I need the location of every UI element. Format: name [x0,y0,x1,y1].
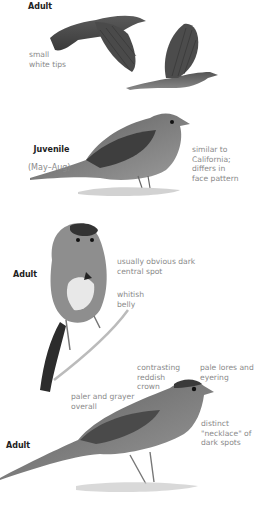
central-spot-label: usually obvious dark central spot [117,257,195,276]
adult-front-heading: Adult [13,270,37,279]
adult-front-bird-illustration [40,223,128,392]
juvenile-heading: Juvenile (May–Aug) [28,136,70,181]
juvenile-season: (May–Aug) [28,163,70,172]
adult-side-heading: Adult [6,441,30,450]
adult-flight-heading: Adult [28,2,52,11]
reddish-crown-label: contrasting reddish crown [137,363,180,392]
paler-grayer-label: paler and grayer overall [71,392,134,411]
necklace-label: distinct "necklace" of dark spots [201,419,251,448]
pale-lores-label: pale lores and eyering [200,363,254,382]
flying-bird-right-illustration [126,24,218,90]
juvenile-comparison-label: similar to California; differs in face p… [192,145,239,183]
small-white-tips-label: small white tips [29,50,66,69]
juvenile-title: Juvenile [34,145,70,154]
whitish-belly-label: whitish belly [117,290,144,309]
